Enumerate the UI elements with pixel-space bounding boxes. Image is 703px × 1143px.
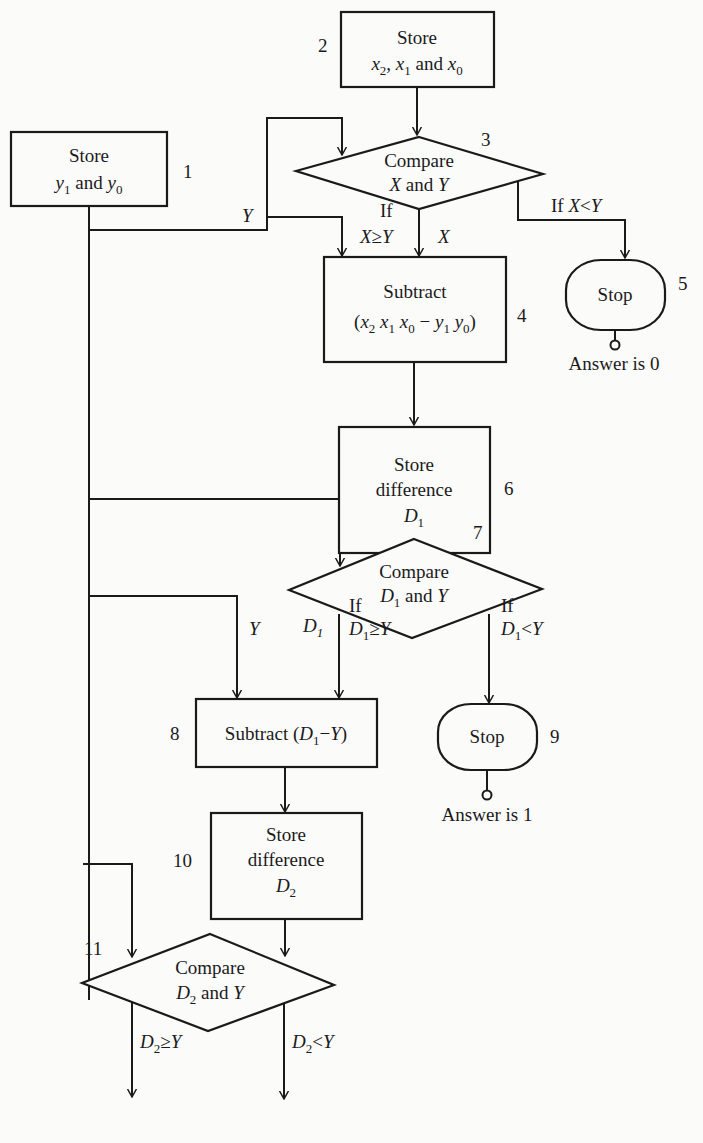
node-3-line-2: X and Y: [388, 174, 451, 195]
node-3-line-1: Compare: [384, 150, 454, 171]
edge-11-continue-label: D2≥Y: [139, 1031, 184, 1056]
edge-11-12-label: D2<Y: [291, 1031, 336, 1056]
node-4-line-1: Subtract: [383, 281, 447, 302]
node-7-number: 7: [473, 522, 483, 543]
edge-3-4-label-cond: X≥Y: [359, 226, 395, 247]
edge-7-8-carry-label: D1: [302, 615, 323, 640]
node-8-number: 8: [170, 723, 180, 744]
edge-3-5-label: If X<Y: [551, 195, 604, 216]
node-4-subtract: Subtract (x2 x1 x0 − y1 y0) 4: [324, 257, 527, 362]
edge-7-9-label-if: If: [501, 595, 514, 616]
edge-1-7: [89, 499, 340, 566]
edge-1-4: [267, 217, 342, 256]
node-6-number: 6: [504, 478, 514, 499]
node-7-line-1: Compare: [379, 561, 449, 582]
node-9-stop: Stop 9 Answer is 1: [438, 704, 560, 825]
node-11-number: 11: [84, 938, 102, 959]
node-10-line-1: Store: [266, 824, 306, 845]
edge-7-8-label-if: If: [349, 595, 362, 616]
node-2-store-x: Store x2, x1 and x0 2: [318, 12, 494, 87]
node-5-number: 5: [678, 273, 688, 294]
node-1-store-y: Store y1 and y0 1: [11, 132, 193, 206]
node-6-line-1: Store: [394, 454, 434, 475]
node-5-label: Stop: [598, 284, 633, 305]
node-5-stop: Stop 5 Answer is 0: [566, 260, 688, 374]
edge-3-4-label-if: If: [380, 200, 393, 221]
answer-0-label: Answer is 0: [569, 353, 660, 374]
node-10-store-d2: Store difference D2 10: [173, 813, 362, 919]
node-9-label: Stop: [470, 726, 505, 747]
node-1-line-1: Store: [69, 145, 109, 166]
node-10-number: 10: [173, 850, 192, 871]
node-1-number: 1: [183, 161, 193, 182]
node-2-number: 2: [318, 35, 328, 56]
edge-3-4-carry-label: X: [437, 226, 451, 247]
node-8-subtract-d1-y: Subtract (D1−Y) 8: [170, 699, 377, 767]
node-3-compare-x-y: Compare X and Y 3: [296, 129, 543, 209]
edge-7-9-label-cond: D1<Y: [500, 618, 545, 643]
node-3-number: 3: [481, 129, 491, 150]
flowchart: Store y1 and y0 1 Store x2, x1 and x0 2 …: [0, 0, 703, 1143]
edge-label-y-2: Y: [249, 618, 262, 639]
edge-3-5: [518, 182, 625, 258]
node-11-line-1: Compare: [175, 957, 245, 978]
node-10-line-2: difference: [248, 849, 325, 870]
answer1-terminal-dot: [483, 791, 492, 800]
node-6-line-2: difference: [376, 479, 453, 500]
node-2-line-1: Store: [397, 27, 437, 48]
node-4-number: 4: [517, 305, 527, 326]
answer0-terminal-dot: [611, 341, 620, 350]
answer-1-label: Answer is 1: [442, 804, 533, 825]
node-6-store-d1: Store difference D1 6: [339, 427, 514, 553]
node-9-number: 9: [550, 726, 560, 747]
edge-1-8: [89, 596, 237, 698]
node-11-compare-d2-y: Compare D2 and Y 11: [82, 934, 334, 1031]
edge-label-y-1: Y: [242, 205, 255, 226]
edge-7-8-label-cond: D1≥Y: [348, 618, 393, 643]
